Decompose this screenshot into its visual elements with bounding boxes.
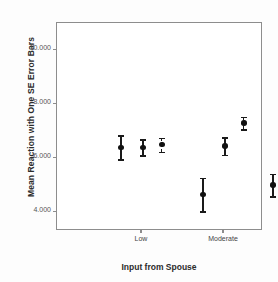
error-bar-cap-top	[118, 135, 125, 137]
error-bar-cap-top	[159, 138, 166, 140]
chart-figure: Mean Reaction with One SE Error Bars 4.0…	[0, 0, 278, 282]
error-bar-cap-top	[140, 139, 147, 141]
data-point-marker	[222, 143, 227, 148]
x-tick-label: Moderate	[208, 235, 238, 242]
error-bar-cap-top	[200, 178, 207, 180]
y-tick-label: 4.000	[33, 206, 51, 213]
x-tick-label: Low	[135, 235, 148, 242]
error-bar-cap-bottom	[200, 211, 207, 213]
error-bar-cap-bottom	[118, 159, 125, 161]
y-tick-label: 6.000	[33, 152, 51, 159]
error-bar-cap-top	[241, 117, 248, 119]
error-bar-cap-top	[222, 137, 229, 139]
error-bar-cap-bottom	[159, 152, 166, 154]
data-point-marker	[270, 182, 275, 187]
x-tick-mark	[140, 229, 141, 233]
error-bar-cap-bottom	[270, 196, 277, 198]
y-tick-label: 10.000	[30, 44, 51, 51]
x-tick-mark	[222, 229, 223, 233]
y-tick-mark	[53, 157, 57, 158]
plot-area: 4.0006.0008.00010.000 LowModerateHigh	[56, 22, 262, 230]
x-axis-title: Input from Spouse	[56, 262, 262, 272]
data-point-marker	[241, 120, 246, 125]
y-tick-label: 8.000	[33, 98, 51, 105]
data-point-marker	[118, 145, 123, 150]
error-bar-cap-bottom	[222, 155, 229, 157]
error-bar-cap-top	[270, 174, 277, 176]
data-point-marker	[200, 192, 205, 197]
data-point-marker	[140, 145, 145, 150]
error-bar-cap-bottom	[241, 129, 248, 131]
y-tick-mark	[53, 103, 57, 104]
error-bar-cap-bottom	[140, 155, 147, 157]
y-tick-mark	[53, 211, 57, 212]
data-point-marker	[159, 142, 164, 147]
y-tick-mark	[53, 49, 57, 50]
